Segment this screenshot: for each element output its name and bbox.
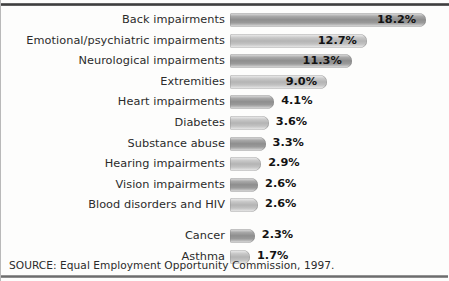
bar-track <box>230 137 266 151</box>
bar-value-label: 3.3% <box>273 136 304 150</box>
bar-track: 11.3% <box>230 54 352 68</box>
bar <box>230 116 269 130</box>
bar-row: Heart impairments4.1% <box>1 94 449 110</box>
bar-value-label: 4.1% <box>281 94 312 108</box>
bar-row: Back impairments18.2% <box>1 12 449 28</box>
bar-track <box>230 198 258 212</box>
bar-track: 9.0% <box>230 75 327 89</box>
bar <box>230 229 255 243</box>
bar <box>230 178 258 192</box>
bar <box>230 157 261 171</box>
bar-value-label: 18.2% <box>377 13 416 27</box>
bar-track <box>230 178 258 192</box>
bar-category-label: Cancer <box>1 228 225 244</box>
bar-value-label: 2.6% <box>265 197 296 211</box>
bar-category-label: Emotional/psychiatric impairments <box>1 33 225 49</box>
bar <box>230 137 266 151</box>
bar-track <box>230 95 274 109</box>
bar-row: Substance abuse3.3% <box>1 136 449 152</box>
bar-value-label: 2.3% <box>262 228 293 242</box>
bar-category-label: Heart impairments <box>1 94 225 110</box>
bar-track <box>230 116 269 130</box>
bar-value-label: 12.7% <box>318 34 357 48</box>
bar-track <box>230 229 255 243</box>
bar-row: Diabetes3.6% <box>1 115 449 131</box>
bar-value-label: 11.3% <box>303 54 342 68</box>
bar-value-label: 2.9% <box>268 156 299 170</box>
figure-container: Back impairments18.2%Emotional/psychiatr… <box>0 0 449 281</box>
bar <box>230 95 274 109</box>
bar-value-label: 9.0% <box>286 75 317 89</box>
bottom-rule-divider <box>1 275 448 278</box>
bar-chart-plot-area: Back impairments18.2%Emotional/psychiatr… <box>1 10 449 255</box>
bar-row: Cancer2.3% <box>1 228 449 244</box>
bar-category-label: Substance abuse <box>1 136 225 152</box>
bar-category-label: Neurological impairments <box>1 53 225 69</box>
bar-row: Neurological impairments11.3% <box>1 53 449 69</box>
bar-track <box>230 157 261 171</box>
bar-value-label: 3.6% <box>276 115 307 129</box>
bar-category-label: Extremities <box>1 74 225 90</box>
bar-category-label: Blood disorders and HIV <box>1 197 225 213</box>
bar-track: 18.2% <box>230 13 426 27</box>
bar-track: 12.7% <box>230 34 367 48</box>
bar-value-label: 2.6% <box>265 177 296 191</box>
top-rule-divider <box>1 3 449 6</box>
bar-row: Extremities9.0% <box>1 74 449 90</box>
bar-row: Vision impairments2.6% <box>1 177 449 193</box>
source-note: SOURCE: Equal Employment Opportunity Com… <box>9 259 334 271</box>
bar-row: Hearing impairments2.9% <box>1 156 449 172</box>
bar-row: Blood disorders and HIV2.6% <box>1 197 449 213</box>
bar-category-label: Vision impairments <box>1 177 225 193</box>
bar-row: Emotional/psychiatric impairments12.7% <box>1 33 449 49</box>
bar-category-label: Back impairments <box>1 12 225 28</box>
bar-category-label: Diabetes <box>1 115 225 131</box>
bar <box>230 198 258 212</box>
bar-category-label: Hearing impairments <box>1 156 225 172</box>
